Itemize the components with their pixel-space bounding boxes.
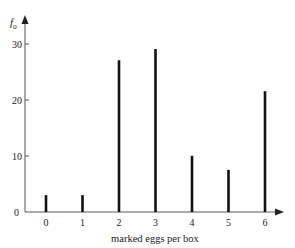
- y-tick-label: 10: [12, 151, 22, 162]
- bars: [46, 49, 265, 212]
- x-axis-arrow-icon: [275, 209, 284, 216]
- x-tick-label: 3: [153, 217, 158, 228]
- x-tick-label: 0: [44, 217, 49, 228]
- x-axis-label: marked eggs per box: [111, 233, 200, 244]
- x-tick-label: 5: [226, 217, 231, 228]
- y-ticks: 30 20 10 0: [12, 39, 29, 218]
- x-tick-label: 6: [263, 217, 268, 228]
- x-tick-label: 4: [190, 217, 195, 228]
- y-tick-label: 30: [12, 39, 22, 50]
- x-tick-labels: 0123456: [44, 217, 268, 228]
- frequency-chart: fo 30 20 10 0 0123456 marked eggs per bo…: [0, 0, 295, 248]
- x-tick-label: 1: [80, 217, 85, 228]
- y-axis-label: fo: [10, 16, 17, 31]
- x-tick-label: 2: [117, 217, 122, 228]
- y-tick-label: 20: [12, 95, 22, 106]
- y-axis-arrow-icon: [22, 15, 29, 24]
- y-tick-label: 0: [14, 207, 19, 218]
